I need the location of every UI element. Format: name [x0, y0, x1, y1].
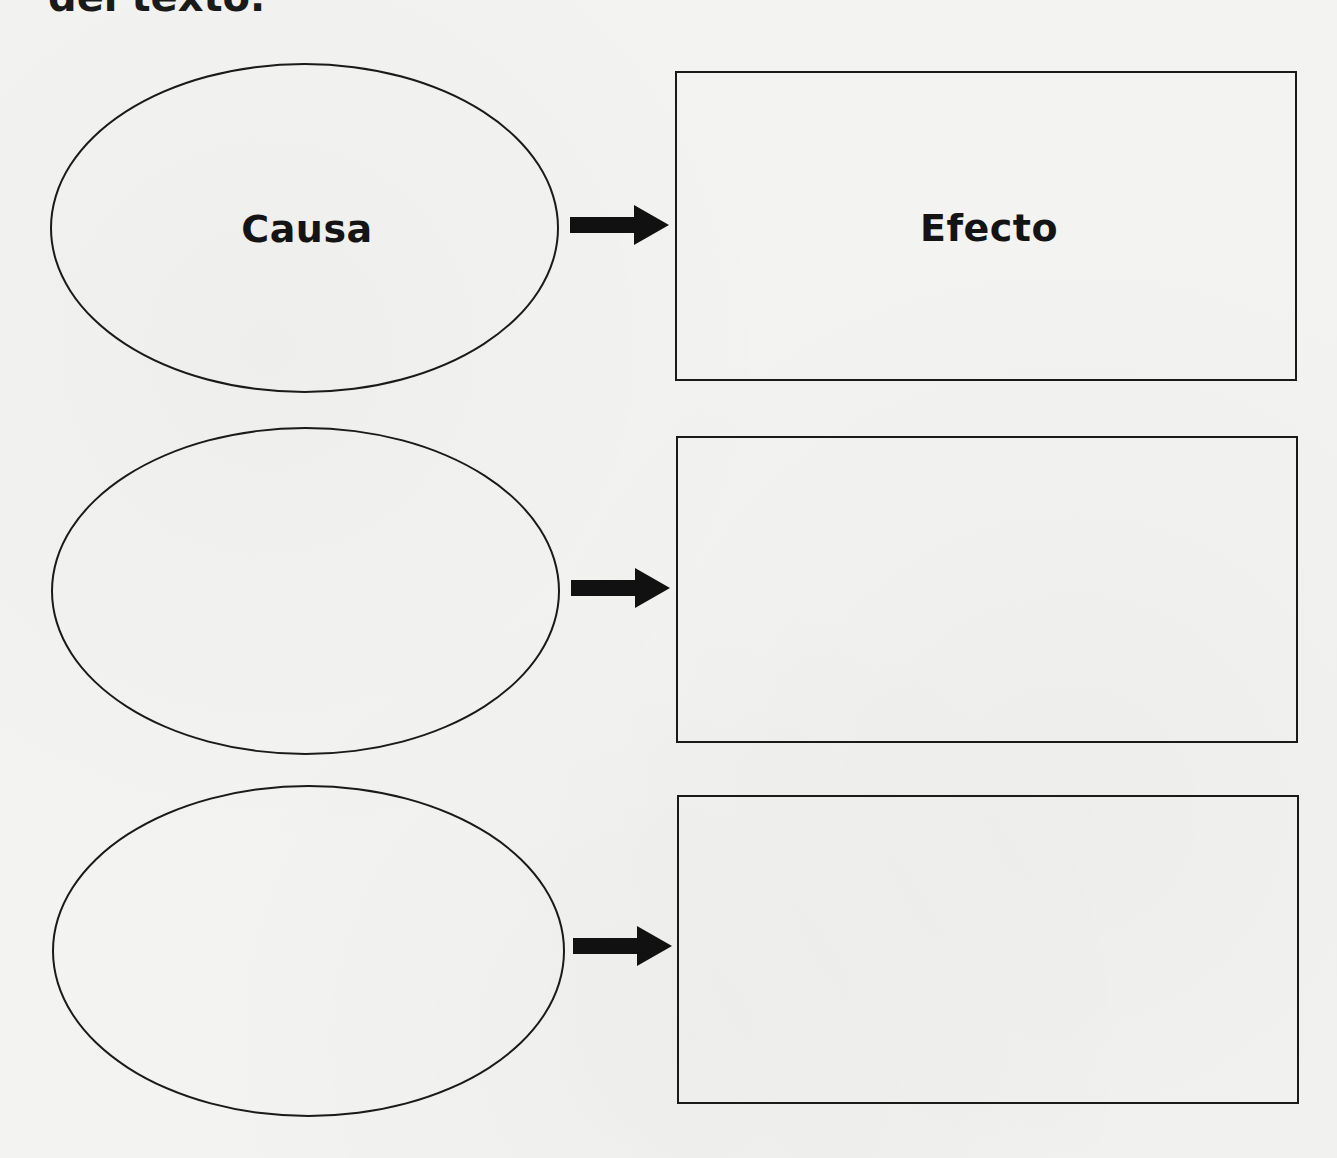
right-arrow-icon — [571, 925, 675, 967]
cause-oval-3[interactable] — [52, 785, 565, 1117]
right-arrow-icon — [568, 204, 672, 246]
cause-label-1: Causa — [241, 207, 372, 251]
effect-label-1: Efecto — [920, 206, 1058, 250]
right-arrow-icon — [569, 567, 673, 609]
cause-oval-2[interactable] — [51, 427, 560, 755]
cause-effect-organizer: Causa Efecto — [0, 0, 1337, 1158]
effect-box-2[interactable] — [676, 436, 1298, 743]
effect-box-3[interactable] — [677, 795, 1299, 1104]
